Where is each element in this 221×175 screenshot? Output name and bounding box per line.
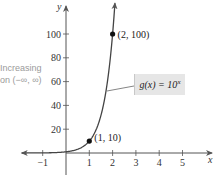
x-tick-label: −1 [37,157,48,168]
function-curve [59,3,115,152]
function-label-exponent: x [177,78,180,86]
x-tick-label: 2 [110,157,115,168]
point-label: (1, 10) [94,132,121,144]
y-tick-label: 40 [51,100,61,111]
x-axis-label: x [207,154,213,165]
chart-plot: x y −112345 20406080100 (1, 10)(2, 100) [0,0,221,175]
annotation-line-1: Increasing [0,62,48,74]
y-tick-label: 100 [46,29,61,40]
point-label: (2, 100) [118,29,150,41]
data-point [110,31,115,36]
y-tick-label: 80 [51,52,61,63]
x-tick-label: 3 [133,157,138,168]
y-tick-label: 60 [51,76,61,87]
data-point [87,139,92,144]
function-label-text: g(x) = 10x [140,79,181,90]
y-axis-label: y [56,1,62,12]
increasing-annotation: Increasing on (−∞, ∞) [0,62,48,86]
function-label-box: g(x) = 10x [134,74,185,95]
x-tick-label: 1 [87,157,92,168]
label-pointer [107,86,134,91]
y-tick-label: 20 [51,124,61,135]
x-tick-label: 4 [157,157,162,168]
annotation-line-2: on (−∞, ∞) [0,74,48,86]
x-tick-label: 5 [180,157,185,168]
function-label-base: g(x) = 10 [140,79,178,90]
function-curve-left-arrow [22,152,59,153]
